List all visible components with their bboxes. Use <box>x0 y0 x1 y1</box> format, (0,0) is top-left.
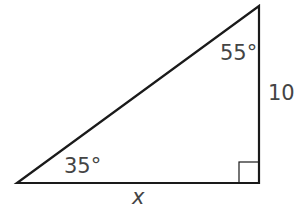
right-triangle-diagram: 35° 55° 10 x <box>0 0 298 216</box>
right-angle-marker <box>239 162 259 183</box>
triangle-drawing <box>0 0 298 216</box>
triangle-outline <box>17 6 259 183</box>
side-label-horizontal: x <box>132 187 144 208</box>
side-label-vertical: 10 <box>268 83 295 104</box>
angle-label-bottom-left: 35° <box>64 156 101 177</box>
angle-label-top: 55° <box>220 43 257 64</box>
